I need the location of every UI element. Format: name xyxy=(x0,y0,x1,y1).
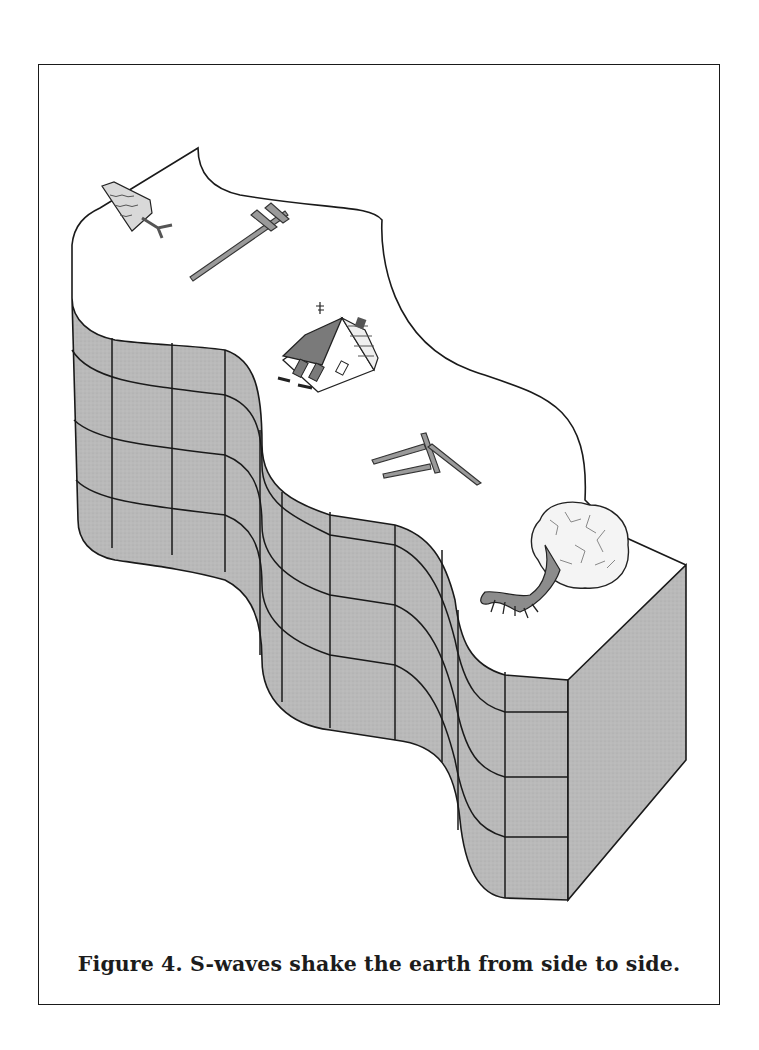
uprooted-tree-icon xyxy=(481,502,629,618)
figure-caption: Figure 4. S-waves shake the earth from s… xyxy=(38,952,720,976)
fallen-utility-pole-icon xyxy=(190,203,289,281)
earth-block-end-face xyxy=(568,565,686,900)
pine-tree-icon xyxy=(102,182,172,238)
s-wave-illustration xyxy=(0,0,759,1050)
collapsed-fence-icon xyxy=(372,433,481,485)
tilted-house-icon xyxy=(278,302,378,392)
